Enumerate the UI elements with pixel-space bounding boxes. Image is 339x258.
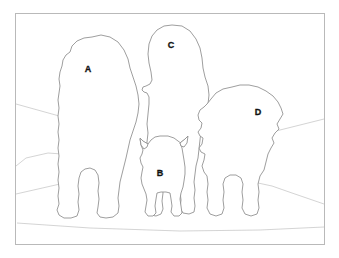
subject-label-a: A xyxy=(85,65,92,74)
subject-label-b: B xyxy=(157,169,164,178)
figure-canvas: A B C D xyxy=(0,0,339,258)
subject-label-d: D xyxy=(255,108,262,117)
subject-label-c: C xyxy=(168,41,175,50)
